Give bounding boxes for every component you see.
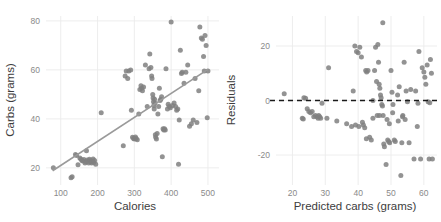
y-tick-labels-left: 20406080 [31,16,41,173]
data-point [385,117,390,122]
data-point [390,110,395,115]
data-point [318,116,323,121]
x-tick-label: 20 [288,188,298,198]
data-point [320,101,325,106]
data-point [425,63,430,68]
scatter-plot-right: 2030405060 -20020 Predicted carbs (grams… [221,0,441,222]
x-tick-label: 50 [386,188,396,198]
data-point [70,174,75,179]
data-point [404,88,409,93]
data-point [380,20,385,25]
data-point [402,60,407,65]
data-point [375,42,380,47]
data-point [375,113,380,118]
x-tick-label: 500 [201,188,215,198]
data-point [175,107,180,112]
y-tick-label: 0 [265,96,270,106]
data-point [194,120,199,125]
data-point [135,137,140,142]
data-point [128,67,133,72]
data-point [399,140,404,145]
data-point [148,65,153,70]
data-point [99,110,104,115]
data-point [177,118,182,123]
data-point [364,136,369,141]
data-point [157,86,162,91]
data-point [163,127,168,132]
data-point [129,108,134,113]
data-point [351,88,356,93]
data-point [125,76,130,81]
data-point [415,101,420,106]
data-point [152,107,157,112]
data-point [301,117,306,122]
gridlines-left [46,16,219,185]
data-point [334,118,339,123]
data-point [390,102,395,107]
data-point [205,115,210,120]
x-tick-labels-right: 2030405060 [288,188,429,198]
data-point [160,154,165,159]
fit-line-left [53,69,208,170]
data-point [398,173,403,178]
data-point [389,68,394,73]
data-point [359,54,364,59]
data-point [422,75,427,80]
data-point [395,93,400,98]
scatter-panel-residuals: 2030405060 -20020 Predicted carbs (grams… [221,0,441,222]
data-point [408,87,413,92]
x-tick-label: 100 [54,188,68,198]
data-point [150,76,155,81]
scatter-plot-left: 100200300400500 20406080 Calories Carbs … [0,0,221,222]
y-axis-title-left: Carbs (grams) [4,63,16,137]
data-point [76,162,81,167]
data-point [382,144,387,149]
data-point [326,65,331,70]
x-tick-label: 60 [419,188,429,198]
data-point [428,57,433,62]
data-point [418,157,423,162]
data-point [380,103,385,108]
data-point [183,70,188,75]
data-point [412,157,417,162]
y-tick-label: 80 [31,16,41,26]
data-point [352,43,357,48]
data-point [143,62,148,67]
data-point [421,69,426,74]
y-tick-label: 40 [31,114,41,124]
data-point [163,66,168,71]
data-point [178,48,183,53]
data-point [155,111,160,116]
y-tick-label: 60 [31,65,41,75]
data-point [430,157,435,162]
data-point [427,100,432,105]
data-point [324,116,329,121]
data-point [407,140,412,145]
data-point [376,60,381,65]
data-point [344,121,349,126]
data-point [372,68,377,73]
data-point [357,45,362,50]
x-tick-label: 400 [164,188,178,198]
data-point [93,162,98,167]
data-point [155,131,160,136]
data-point [366,68,371,73]
data-point [423,82,428,87]
data-point [121,143,126,148]
data-point [201,54,206,59]
y-tick-label: 20 [261,41,271,51]
data-point [389,90,394,95]
data-point [370,116,375,121]
data-point [384,162,389,167]
data-point [393,139,398,144]
x-axis-title-left: Calories [114,200,156,212]
scatter-panel-calories-vs-carbs: 100200300400500 20406080 Calories Carbs … [0,0,221,222]
data-point [154,136,159,141]
data-point [185,62,190,67]
figure-container: 100200300400500 20406080 Calories Carbs … [0,0,441,222]
data-point [141,85,146,90]
y-tick-label: 20 [31,163,41,173]
data-point [379,95,384,100]
data-point [415,124,420,129]
y-tick-label: -20 [258,150,271,160]
